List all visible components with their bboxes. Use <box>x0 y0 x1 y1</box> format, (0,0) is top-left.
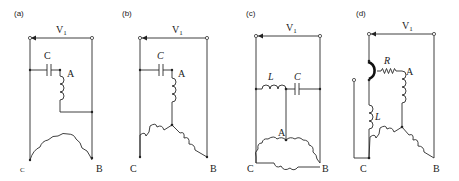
winding-icon <box>256 163 320 170</box>
inductor-icon <box>172 78 176 102</box>
cap-label: C <box>294 71 301 82</box>
node-b-label: B <box>433 163 440 174</box>
node-c-label: C <box>20 166 25 174</box>
inductor-icon <box>369 105 373 129</box>
node-b-label: B <box>96 163 103 174</box>
cap-label: C <box>157 50 164 61</box>
ind-label: L <box>374 111 381 122</box>
node-c-label: C <box>130 163 137 174</box>
inductor-icon <box>262 85 286 89</box>
circuit-diagrams: (a) V1 C A C B (b) <box>0 0 459 181</box>
terminal-left <box>28 36 31 39</box>
arrow-icon <box>142 36 147 41</box>
res-label: R <box>383 55 390 66</box>
node-c-label: C <box>247 163 254 174</box>
arrow-icon <box>371 32 376 37</box>
inductor-icon <box>60 76 64 100</box>
winding-icon <box>402 127 434 158</box>
resistor-icon <box>381 69 396 74</box>
panel-a-label: (a) <box>14 9 24 18</box>
panel-c-label: (c) <box>246 9 256 18</box>
arrow-icon <box>258 34 263 39</box>
winding-icon <box>369 126 402 158</box>
circuit-figure: (a) V1 C A C B (b) <box>0 0 459 181</box>
voltage-label: V1 <box>286 22 297 35</box>
voltage-label: V1 <box>172 24 183 37</box>
winding-icon <box>286 138 320 163</box>
voltage-label: V1 <box>56 24 67 37</box>
terminal-aux <box>352 78 355 81</box>
ind-label: L <box>267 71 274 82</box>
voltage-label: V1 <box>402 20 413 33</box>
panel-a: (a) V1 C A C B <box>14 9 103 174</box>
winding-icon <box>140 124 172 157</box>
cap-label: C <box>44 50 51 61</box>
node-a-label: A <box>178 68 186 79</box>
node-c-label: C <box>360 163 367 174</box>
node-a-label: A <box>278 127 286 138</box>
panel-c: (c) V1 L C A C B <box>246 9 329 174</box>
panel-d-label: (d) <box>356 9 366 18</box>
node-b-label: B <box>322 163 329 174</box>
panel-d: (d) V1 R A L C B <box>352 9 440 174</box>
panel-b: (b) V1 C A C B <box>122 9 217 174</box>
switch-icon <box>368 62 375 79</box>
node-a-label: A <box>406 66 414 77</box>
winding-icon <box>172 125 207 157</box>
winding-icon <box>255 137 286 163</box>
panel-b-label: (b) <box>122 9 132 18</box>
node-a-label: A <box>67 68 75 79</box>
node-b-label: B <box>210 163 217 174</box>
winding-icon <box>30 133 92 160</box>
terminal-right <box>90 36 93 39</box>
